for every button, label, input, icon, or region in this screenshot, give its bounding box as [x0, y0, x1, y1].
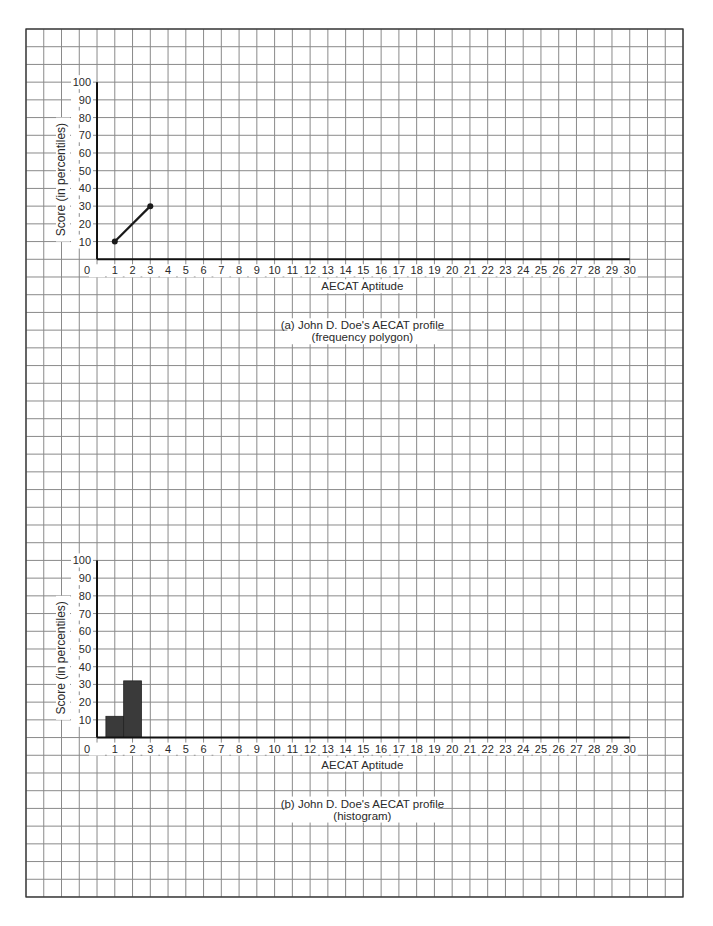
x-tick-label: 15: [357, 743, 369, 755]
x-tick-label: 27: [570, 264, 582, 276]
x-tick-label: 16: [375, 743, 387, 755]
y-tick-label: 20: [79, 696, 91, 708]
x-tick-label: 0: [84, 743, 90, 755]
x-tick-label: 27: [570, 743, 582, 755]
y-tick-label: 40: [79, 182, 91, 194]
x-tick-label: 21: [464, 264, 476, 276]
x-tick-label: 3: [147, 264, 153, 276]
y-tick-label: 90: [79, 94, 91, 106]
x-tick-label: 18: [411, 743, 423, 755]
x-tick-label: 29: [606, 264, 618, 276]
x-tick-label: 21: [464, 743, 476, 755]
x-tick-label: 9: [254, 264, 260, 276]
histogram-bar: [124, 681, 142, 738]
x-tick-label: 19: [428, 743, 440, 755]
x-tick-label: 28: [588, 264, 600, 276]
x-tick-label: 23: [499, 743, 511, 755]
y-tick-label: 70: [79, 129, 91, 141]
x-tick-label: 4: [165, 743, 171, 755]
x-tick-label: 25: [535, 264, 547, 276]
x-tick-label: 30: [624, 743, 636, 755]
x-tick-label: 2: [129, 743, 135, 755]
x-tick-label: 19: [428, 264, 440, 276]
x-tick-label: 3: [147, 743, 153, 755]
x-tick-label: 25: [535, 743, 547, 755]
x-tick-label: 5: [183, 743, 189, 755]
y-tick-label: 20: [79, 218, 91, 230]
x-tick-label: 4: [165, 264, 171, 276]
y-axis-label: Score (in percentiles): [54, 601, 68, 714]
x-tick-label: 17: [393, 264, 405, 276]
x-tick-label: 6: [201, 264, 207, 276]
x-tick-label: 18: [411, 264, 423, 276]
y-tick-label: 40: [79, 661, 91, 673]
x-tick-label: 10: [268, 264, 280, 276]
y-tick-label: 80: [79, 590, 91, 602]
chart-caption-title: (a) John D. Doe's AECAT profile: [281, 319, 444, 331]
graph-paper: 1020304050607080901000123456789101112131…: [0, 0, 713, 926]
x-tick-label: 5: [183, 264, 189, 276]
x-tick-label: 15: [357, 264, 369, 276]
chart-caption-title: (b) John D. Doe's AECAT profile: [281, 798, 444, 810]
x-tick-label: 0: [84, 264, 90, 276]
x-tick-label: 12: [304, 743, 316, 755]
x-tick-label: 11: [287, 264, 298, 276]
y-tick-label: 100: [73, 76, 91, 88]
y-tick-label: 90: [79, 572, 91, 584]
y-tick-label: 60: [79, 625, 91, 637]
x-tick-label: 14: [340, 264, 352, 276]
y-tick-label: 50: [79, 643, 91, 655]
x-tick-label: 11: [287, 743, 298, 755]
x-tick-label: 23: [499, 264, 511, 276]
data-point: [147, 203, 153, 209]
x-tick-label: 24: [517, 743, 529, 755]
y-tick-label: 50: [79, 165, 91, 177]
x-tick-label: 22: [482, 743, 494, 755]
y-tick-label: 30: [79, 678, 91, 690]
y-tick-label: 60: [79, 147, 91, 159]
x-tick-label: 17: [393, 743, 405, 755]
x-tick-label: 24: [517, 264, 529, 276]
x-tick-label: 9: [254, 743, 260, 755]
x-tick-label: 30: [624, 264, 636, 276]
x-tick-label: 7: [218, 264, 224, 276]
x-tick-label: 13: [322, 264, 334, 276]
x-tick-label: 2: [129, 264, 135, 276]
x-tick-label: 26: [553, 264, 565, 276]
y-tick-label: 100: [73, 554, 91, 566]
x-tick-label: 12: [304, 264, 316, 276]
x-tick-label: 29: [606, 743, 618, 755]
x-tick-label: 8: [236, 743, 242, 755]
x-tick-label: 6: [201, 743, 207, 755]
y-tick-label: 10: [79, 236, 91, 248]
x-tick-label: 7: [218, 743, 224, 755]
chart-caption-subtitle: (frequency polygon): [312, 331, 414, 343]
y-axis-label: Score (in percentiles): [54, 123, 68, 236]
graph-paper-page: 1020304050607080901000123456789101112131…: [0, 0, 713, 926]
histogram-bar: [106, 716, 124, 737]
x-axis-label: AECAT Aptitude: [321, 280, 403, 292]
x-tick-label: 20: [446, 264, 458, 276]
y-tick-label: 70: [79, 608, 91, 620]
x-tick-label: 14: [340, 743, 352, 755]
x-tick-label: 22: [482, 264, 494, 276]
x-axis-label: AECAT Aptitude: [321, 759, 403, 771]
chart-caption-subtitle: (histogram): [333, 810, 391, 822]
x-tick-label: 13: [322, 743, 334, 755]
y-tick-label: 30: [79, 200, 91, 212]
x-tick-label: 8: [236, 264, 242, 276]
x-tick-label: 26: [553, 743, 565, 755]
y-tick-label: 80: [79, 112, 91, 124]
x-tick-label: 16: [375, 264, 387, 276]
x-tick-label: 1: [112, 264, 118, 276]
x-tick-label: 20: [446, 743, 458, 755]
x-tick-label: 10: [268, 743, 280, 755]
y-tick-label: 10: [79, 714, 91, 726]
x-tick-label: 1: [112, 743, 118, 755]
data-point: [112, 239, 118, 245]
x-tick-label: 28: [588, 743, 600, 755]
